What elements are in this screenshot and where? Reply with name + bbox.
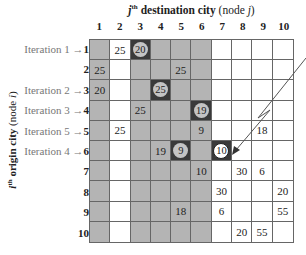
arrow-icon bbox=[0, 0, 306, 255]
